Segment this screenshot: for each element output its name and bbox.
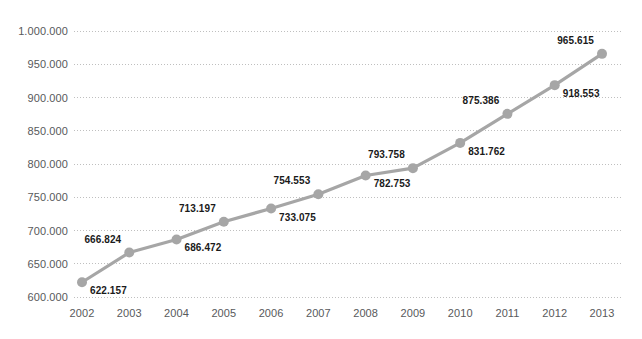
data-point-label: 666.824 [84, 234, 121, 245]
data-point-marker [361, 170, 371, 180]
line-chart: 600.000650.000700.000750.000800.000850.0… [0, 0, 642, 339]
data-point-label: 793.758 [368, 149, 405, 160]
gridlines [74, 31, 622, 297]
y-axis-tick-label: 700.000 [28, 225, 68, 237]
data-point-label: 965.615 [557, 35, 594, 46]
data-point-marker [219, 217, 229, 227]
data-point-marker [502, 109, 512, 119]
y-axis-tick-label: 750.000 [28, 191, 68, 203]
data-point-label: 918.553 [563, 88, 600, 99]
x-axis-tick-label: 2011 [495, 307, 519, 319]
data-point-label: 782.753 [374, 178, 411, 189]
data-point-label: 754.553 [274, 175, 311, 186]
data-point-label: 733.075 [279, 212, 316, 223]
data-point-label: 713.197 [179, 203, 216, 214]
y-axis-tick-label: 950.000 [28, 58, 68, 70]
data-point-markers [77, 49, 607, 287]
data-point-marker [597, 49, 607, 59]
x-axis-tick-label: 2004 [164, 307, 189, 319]
y-axis-tick-label: 650.000 [28, 258, 68, 270]
x-axis-tick-label: 2009 [400, 307, 425, 319]
y-axis-tick-label: 900.000 [28, 92, 68, 104]
data-point-marker [266, 204, 276, 214]
y-axis-tick-label: 800.000 [28, 158, 68, 170]
data-point-marker [313, 189, 323, 199]
x-axis-tick-label: 2013 [590, 307, 615, 319]
data-point-marker [124, 248, 134, 258]
y-axis-tick-label: 850.000 [28, 125, 68, 137]
data-point-marker [455, 138, 465, 148]
data-point-label: 622.157 [90, 285, 127, 296]
series-line [82, 54, 602, 282]
data-point-label: 686.472 [185, 242, 222, 253]
x-axis-tick-label: 2008 [353, 307, 378, 319]
data-point-marker [77, 277, 87, 287]
data-point-marker [550, 80, 560, 90]
x-axis-tick-label: 2003 [117, 307, 142, 319]
data-point-marker [172, 235, 182, 245]
y-axis-tick-label: 600.000 [28, 291, 68, 303]
data-point-label: 831.762 [468, 146, 505, 157]
data-point-label: 875.386 [463, 95, 500, 106]
y-axis-tick-label: 1.000.000 [18, 25, 68, 37]
data-point-marker [408, 163, 418, 173]
x-axis-tick-label: 2007 [306, 307, 331, 319]
x-axis-tick-label: 2010 [448, 307, 473, 319]
x-axis-tick-label: 2002 [70, 307, 95, 319]
x-axis-tick-label: 2005 [211, 307, 236, 319]
x-axis-tick-label: 2006 [259, 307, 284, 319]
x-axis-tick-label: 2012 [542, 307, 567, 319]
